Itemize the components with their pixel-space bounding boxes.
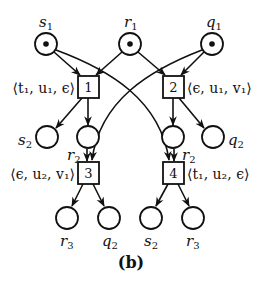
place-q2-bottom: q2 [98,207,120,251]
arc-t4-r3 [178,184,189,206]
token-icon [127,41,133,47]
figure-caption: (b) [118,253,144,272]
transition-number: 1 [84,80,92,95]
arc-t4-s2 [156,184,168,206]
place-s1: s1 [35,13,57,55]
transition-number: 3 [84,166,92,181]
transition-number: 4 [169,166,177,181]
place-r3-left: r3 [56,207,78,251]
transition-3: 3 ⟨ϵ, u₂, v₁⟩ [10,162,99,184]
transition-1: 1 ⟨t₁, u₁, ϵ⟩ [13,76,99,98]
arc-t1-s2 [56,98,82,128]
place-label: q2 [228,131,244,150]
arc-q1-t2 [181,52,204,75]
place-label: q2 [102,232,118,251]
token-icon [43,41,49,47]
place-q2-middle: q2 [202,126,244,150]
arc-t2-q2 [179,98,204,128]
arc-t3-r3 [72,184,83,206]
place-r2-left: r2 [67,126,99,165]
transition-number: 2 [169,80,177,95]
arc-r1-t1 [96,52,122,75]
place-label: r3 [60,232,74,251]
transition-4: 4 ⟨t₁, u₂, ϵ⟩ [163,162,249,184]
place-label: s1 [39,13,53,32]
place-r3-right: r3 [182,207,204,251]
token-icon [209,41,215,47]
place-r1: r1 [119,13,141,55]
transition-label: ⟨t₁, u₁, ϵ⟩ [13,80,75,96]
transition-label: ⟨ϵ, u₂, v₁⟩ [10,166,75,182]
place-label: q1 [206,13,222,32]
transition-label: ⟨t₁, u₂, ϵ⟩ [187,166,249,182]
place-r2-right: r2 [162,126,196,165]
petri-net-diagram: s1 r1 q1 s2 r2 r2 q2 r3 [0,0,263,281]
transition-label: ⟨ϵ, u₁, v₁⟩ [187,80,252,96]
arc-s1-t4 [56,50,169,160]
place-label: s2 [18,131,32,150]
place-q1: q1 [201,13,223,55]
place-label: r1 [124,13,138,32]
place-label: r3 [186,232,200,251]
arc-r1-t2 [138,52,165,75]
place-label: s2 [144,232,158,251]
arc-t3-q2 [93,184,104,206]
place-s2-bottom: s2 [140,207,162,251]
place-s2-middle: s2 [18,126,58,150]
arc-s1-t1 [54,52,80,75]
transition-2: 2 ⟨ϵ, u₁, v₁⟩ [163,76,252,98]
